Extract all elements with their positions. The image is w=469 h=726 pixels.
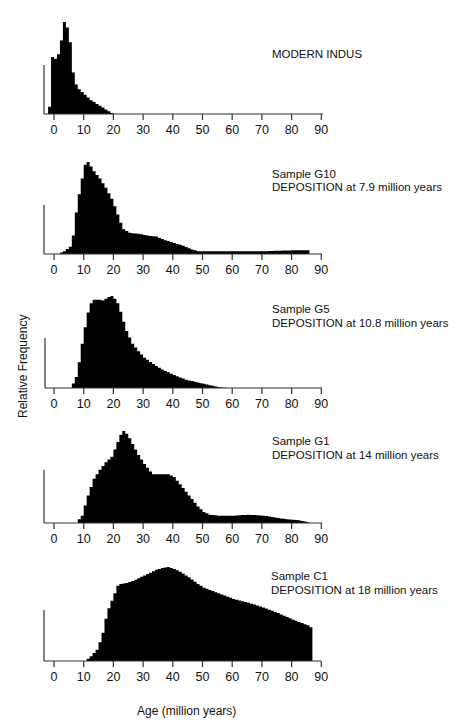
x-tick-label: 90 [314,123,328,137]
x-tick-label: 40 [166,397,180,411]
x-tick-label: 70 [255,123,269,137]
panel-title: Sample G10 [272,168,336,180]
x-tick-label: 10 [77,397,91,411]
x-tick-label: 80 [285,397,299,411]
x-tick-label: 0 [51,397,58,411]
x-tick-label: 0 [51,123,58,137]
panel-sample-c1: 0102030405060708090 Sample C1 DEPOSITION… [44,567,438,684]
x-tick-label: 0 [51,532,58,546]
x-tick-label: 30 [136,263,150,277]
panel-sample-g10: 0102030405060708090 Sample G10 DEPOSITIO… [44,162,442,277]
x-tick-label: 40 [166,123,180,137]
x-tick-label: 20 [106,123,120,137]
x-tick-label: 50 [196,397,210,411]
x-tick-label: 50 [196,670,210,684]
x-tick-label: 90 [314,532,328,546]
x-tick-label: 30 [136,123,150,137]
x-tick-label: 20 [106,397,120,411]
panel-title: Sample G1 [272,435,330,447]
histogram-area [48,22,113,114]
x-tick-label: 10 [77,263,91,277]
x-tick-label: 70 [255,397,269,411]
panel-title: MODERN INDUS [272,48,362,60]
panel-subtitle: DEPOSITION at 7.9 million years [272,181,442,193]
x-tick-label: 70 [255,670,269,684]
panel-sample-g1: 0102030405060708090 Sample G1 DEPOSITION… [44,431,439,546]
x-tick-label: 50 [196,532,210,546]
x-tick-label: 30 [136,670,150,684]
x-tick-label: 90 [314,397,328,411]
x-axis-ticks: 0102030405060708090 [51,388,329,411]
x-tick-label: 70 [255,532,269,546]
panel-modern-indus: 0102030405060708090 MODERN INDUS [44,22,362,137]
x-tick-label: 60 [225,397,239,411]
x-tick-label: 60 [225,670,239,684]
y-axis-title: Relative Frequency [16,315,30,418]
x-tick-label: 10 [77,123,91,137]
x-axis-ticks: 0102030405060708090 [51,523,329,546]
x-tick-label: 50 [196,263,210,277]
x-tick-label: 30 [136,532,150,546]
panel-title: Sample C1 [271,570,328,582]
x-axis-ticks: 0102030405060708090 [51,661,329,684]
x-tick-label: 40 [166,532,180,546]
x-tick-label: 50 [196,123,210,137]
x-tick-label: 70 [255,263,269,277]
x-tick-label: 10 [77,670,91,684]
histogram-figure: 0102030405060708090 MODERN INDUS 0102030… [0,0,469,726]
x-tick-label: 20 [106,670,120,684]
x-axis-ticks: 0102030405060708090 [51,254,329,277]
x-tick-label: 30 [136,397,150,411]
x-tick-label: 40 [166,263,180,277]
panel-subtitle: DEPOSITION at 18 million years [271,584,438,596]
x-tick-label: 60 [225,123,239,137]
x-tick-label: 80 [285,532,299,546]
x-axis-title: Age (million years) [137,704,236,718]
x-tick-label: 40 [166,670,180,684]
x-tick-label: 0 [51,263,58,277]
x-axis-ticks: 0102030405060708090 [51,114,329,137]
histogram-area [69,296,226,388]
panel-title: Sample G5 [272,303,330,315]
x-tick-label: 0 [51,670,58,684]
panel-subtitle: DEPOSITION at 14 million years [272,449,439,461]
x-tick-label: 80 [285,263,299,277]
x-tick-label: 20 [106,263,120,277]
x-tick-label: 60 [225,263,239,277]
x-tick-label: 80 [285,670,299,684]
x-tick-label: 20 [106,532,120,546]
panel-subtitle: DEPOSITION at 10.8 million years [272,317,449,329]
x-tick-label: 60 [225,532,239,546]
x-tick-label: 10 [77,532,91,546]
x-tick-label: 90 [314,670,328,684]
panel-sample-g5: 0102030405060708090 Sample G5 DEPOSITION… [45,296,449,411]
x-tick-label: 80 [285,123,299,137]
x-tick-label: 90 [314,263,328,277]
